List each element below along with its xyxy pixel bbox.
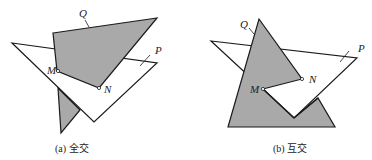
label-p: P [357, 42, 365, 54]
figure-b: Q P M N (b) 互交 [211, 18, 365, 155]
label-n: N [103, 83, 112, 95]
label-n: N [308, 73, 317, 85]
point-m [261, 87, 264, 90]
figure-canvas: Q P M N (a) 全交 Q P M N (b) 互交 [0, 0, 372, 160]
point-m [56, 69, 59, 72]
caption-b: (b) 互交 [273, 142, 307, 155]
caption-a: (a) 全交 [55, 142, 89, 155]
label-m: M [249, 83, 260, 95]
q-leader-line [249, 28, 254, 34]
label-p: P [154, 44, 162, 56]
q-leader-line [85, 20, 89, 27]
label-q: Q [240, 18, 248, 30]
figure-a: Q P M N (a) 全交 [12, 7, 162, 155]
label-q: Q [79, 7, 87, 19]
label-m: M [46, 64, 57, 76]
point-n [300, 77, 303, 80]
point-n [97, 86, 100, 89]
